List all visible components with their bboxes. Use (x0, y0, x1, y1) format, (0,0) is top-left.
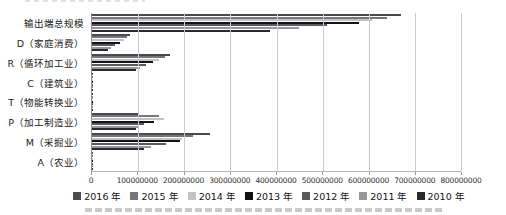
x-tick-label: 0 (89, 176, 94, 185)
x-tick-label: 300000000 (209, 176, 250, 185)
cropped-caption-remnant (85, 208, 443, 212)
legend-label: 2010 年 (428, 189, 465, 203)
gridline (369, 13, 370, 171)
legend-label: 2011 年 (370, 189, 407, 203)
x-tick-label: 600000000 (348, 176, 389, 185)
category-label: P（加工制造业） (0, 112, 87, 132)
legend-label: 2015 年 (141, 189, 178, 203)
bar-2010 (92, 128, 136, 130)
legend-swatch (359, 192, 367, 200)
plot-area (91, 13, 461, 172)
gridline (415, 13, 416, 171)
gridline (138, 13, 139, 171)
gridline (277, 13, 278, 171)
x-axis-ticks (91, 172, 461, 175)
category-label: D（家庭消费） (0, 33, 87, 53)
x-tick-label: 400000000 (255, 176, 296, 185)
bar-2010 (92, 109, 93, 111)
legend-swatch (73, 192, 81, 200)
bar-2010 (92, 168, 93, 170)
bar-2010 (92, 89, 93, 91)
gridline (184, 13, 185, 171)
legend-item: 2012 年 (302, 189, 350, 203)
bar-2010 (92, 148, 144, 150)
category-label: M（采掘业） (0, 132, 87, 152)
x-tick (461, 172, 462, 175)
gridline (461, 13, 462, 171)
x-axis-labels: 0100000000200000000300000000400000000500… (91, 176, 461, 186)
legend-item: 2010 年 (417, 189, 465, 203)
x-tick (369, 172, 370, 175)
x-tick (415, 172, 416, 175)
legend-item: 2015 年 (130, 189, 178, 203)
legend-item: 2014 年 (188, 189, 236, 203)
gridline (323, 13, 324, 171)
legend: 2016 年2015 年2014 年2013 年2012 年2011 年2010… (0, 189, 506, 203)
category-label: T（物能转换业） (0, 93, 87, 113)
legend-item: 2011 年 (359, 189, 407, 203)
x-tick-label: 700000000 (394, 176, 435, 185)
x-tick-label: 800000000 (440, 176, 481, 185)
legend-label: 2013 年 (256, 189, 293, 203)
legend-item: 2013 年 (245, 189, 293, 203)
category-label: C（建筑业） (0, 73, 87, 93)
x-tick (276, 172, 277, 175)
category-label: A（农业） (0, 152, 87, 172)
legend-label: 2014 年 (199, 189, 236, 203)
legend-swatch (130, 192, 138, 200)
legend-item: 2016 年 (73, 189, 121, 203)
x-tick (230, 172, 231, 175)
bar-2010 (92, 49, 108, 51)
category-label: 输出端总规模 (0, 13, 87, 33)
legend-swatch (188, 192, 196, 200)
legend-swatch (417, 192, 425, 200)
legend-swatch (302, 192, 310, 200)
x-tick-label: 200000000 (163, 176, 204, 185)
x-tick-label: 500000000 (302, 176, 343, 185)
gridline (230, 13, 231, 171)
x-tick (184, 172, 185, 175)
legend-label: 2016 年 (84, 189, 121, 203)
scanned-bar-chart-figure: 输出端总规模D（家庭消费）R（循环加工业）C（建筑业）T（物能转换业）P（加工制… (0, 0, 506, 215)
x-tick (137, 172, 138, 175)
y-axis-labels: 输出端总规模D（家庭消费）R（循环加工业）C（建筑业）T（物能转换业）P（加工制… (0, 13, 87, 172)
legend-swatch (245, 192, 253, 200)
category-label: R（循环加工业） (0, 53, 87, 73)
legend-label: 2012 年 (313, 189, 350, 203)
cropped-text-remnant-top (25, 0, 145, 2)
x-tick (322, 172, 323, 175)
bar-2010 (92, 30, 270, 32)
x-tick-label: 100000000 (117, 176, 158, 185)
bar-2010 (92, 69, 136, 71)
x-tick (91, 172, 92, 175)
